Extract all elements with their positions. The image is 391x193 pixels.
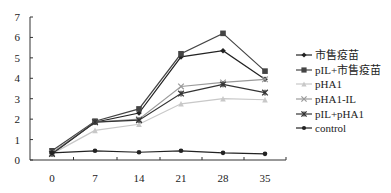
legend-label: 市售疫苗: [315, 49, 359, 61]
legend-label: pIL+市售疫苗: [315, 64, 381, 76]
legend-marker-icon: [296, 65, 312, 75]
series-2: [49, 96, 268, 157]
legend-marker-icon: [296, 123, 312, 133]
legend-marker-icon: [296, 109, 312, 119]
series-1: [49, 31, 268, 154]
y-tick-label: 6: [15, 31, 21, 43]
legend-marker-icon: [296, 94, 312, 104]
legend-label: control: [315, 122, 346, 134]
legend-label: pIL+pHA1: [315, 108, 364, 120]
x-tick-label: 0: [49, 172, 55, 184]
y-tick-label: 3: [15, 93, 21, 105]
legend-item: pIL+pHA1: [296, 106, 391, 121]
y-tick-label: 7: [15, 11, 21, 23]
y-tick-label: 2: [15, 113, 21, 125]
legend-label: pHA1: [315, 78, 342, 90]
x-tick-label: 21: [176, 172, 187, 184]
legend-item: pIL+市售疫苗: [296, 63, 391, 78]
series-4: [49, 82, 268, 157]
series-5: [50, 149, 268, 157]
legend-marker-icon: [296, 79, 312, 89]
legend-label: pHA1-IL: [315, 93, 356, 105]
x-tick-label: 35: [260, 172, 272, 184]
series-0: [49, 48, 268, 157]
x-tick-label: 7: [92, 172, 98, 184]
x-tick-label: 14: [134, 172, 146, 184]
legend-item: 市售疫苗: [296, 48, 391, 63]
legend-item: control: [296, 121, 391, 136]
legend-item: pHA1: [296, 77, 391, 92]
y-tick-label: 1: [15, 134, 21, 146]
y-tick-label: 4: [15, 72, 21, 84]
series-3: [49, 77, 268, 156]
line-chart: 012345670714212835 市售疫苗pIL+市售疫苗pHA1pHA1-…: [0, 0, 391, 193]
legend-marker-icon: [296, 50, 312, 60]
y-tick-label: 0: [15, 154, 21, 166]
y-tick-label: 5: [15, 52, 21, 64]
legend-item: pHA1-IL: [296, 92, 391, 107]
x-tick-label: 28: [218, 172, 230, 184]
chart-legend: 市售疫苗pIL+市售疫苗pHA1pHA1-ILpIL+pHA1control: [296, 48, 391, 136]
